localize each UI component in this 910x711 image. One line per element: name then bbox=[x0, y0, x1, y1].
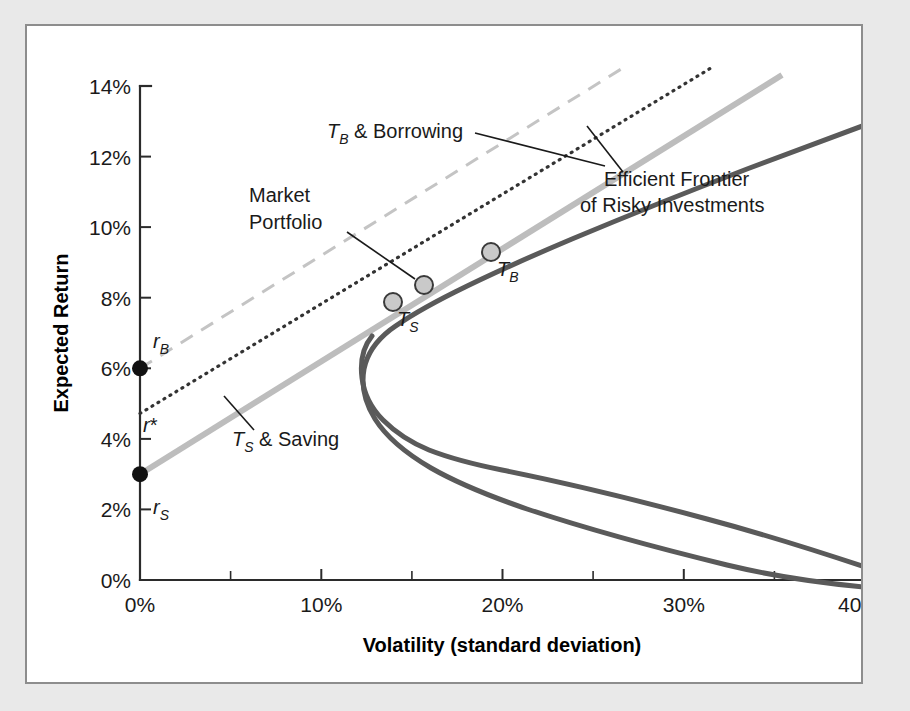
y-ticks-group: 14% 12% 10% 8% 6% 4% 2% 0% bbox=[89, 75, 151, 592]
y-ticklabel-6: 6% bbox=[101, 357, 131, 380]
y-ticklabel-12: 12% bbox=[89, 146, 131, 169]
y-ticklabel-0: 0% bbox=[101, 569, 131, 592]
annotation-ts-saving-rest: & Saving bbox=[254, 428, 340, 450]
annotation-market-portfolio-line2: Portfolio bbox=[249, 211, 322, 233]
annotation-tb-borrowing-rest: & Borrowing bbox=[349, 120, 464, 142]
x-ticklabel-10: 10% bbox=[300, 593, 342, 616]
y-axis-title: Expected Return bbox=[50, 254, 72, 413]
annotation-r-star-sub: * bbox=[150, 414, 158, 436]
annotation-tb-point-sub: B bbox=[509, 269, 518, 285]
annotation-efficient-frontier-line1: Efficient Frontier bbox=[604, 168, 750, 190]
annotation-r-star: r* bbox=[143, 414, 158, 436]
y-ticklabel-2: 2% bbox=[101, 498, 131, 521]
efficient-frontier-chart: 14% 12% 10% 8% 6% 4% 2% 0% 0% bbox=[27, 26, 861, 682]
annotation-efficient-frontier-line2: of Risky Investments bbox=[580, 194, 765, 216]
point-rb-marker bbox=[132, 360, 148, 376]
annotation-ts-saving-text: TS & Saving bbox=[232, 428, 339, 455]
y-ticklabel-10: 10% bbox=[89, 216, 131, 239]
annotation-market-portfolio: Market Portfolio bbox=[249, 184, 415, 279]
x-ticklabel-40: 40% bbox=[838, 593, 861, 616]
x-axis-title: Volatility (standard deviation) bbox=[363, 634, 642, 656]
x-ticks-group: 0% 10% 20% 30% 40% bbox=[125, 569, 861, 616]
figure-page: 14% 12% 10% 8% 6% 4% 2% 0% 0% bbox=[0, 0, 910, 711]
annotation-efficient-frontier-leader bbox=[587, 126, 623, 172]
x-ticklabel-0: 0% bbox=[125, 593, 155, 616]
y-ticklabel-4: 4% bbox=[101, 428, 131, 451]
annotation-ts-saving-leader bbox=[224, 396, 254, 430]
annotation-rs-sub: S bbox=[160, 507, 170, 523]
y-ticklabel-8: 8% bbox=[101, 287, 131, 310]
annotation-ts-saving: TS & Saving bbox=[224, 396, 339, 455]
x-ticklabel-20: 20% bbox=[481, 593, 523, 616]
annotation-rb-sub: B bbox=[160, 341, 169, 357]
annotation-tb-borrowing-text: TB & Borrowing bbox=[327, 120, 463, 147]
annotation-market-portfolio-line1: Market bbox=[249, 184, 311, 206]
annotation-market-portfolio-leader bbox=[347, 232, 415, 279]
annotation-efficient-frontier: Efficient Frontier of Risky Investments bbox=[580, 126, 765, 216]
point-market-portfolio-marker bbox=[415, 276, 433, 294]
figure-frame: 14% 12% 10% 8% 6% 4% 2% 0% 0% bbox=[25, 24, 863, 684]
annotation-tb-borrowing: TB & Borrowing bbox=[327, 120, 605, 166]
point-rs-marker bbox=[132, 466, 148, 482]
x-ticklabel-30: 30% bbox=[663, 593, 705, 616]
y-ticklabel-14: 14% bbox=[89, 75, 131, 98]
annotation-rs-label: rS bbox=[153, 496, 170, 523]
axes-group bbox=[140, 86, 861, 580]
annotation-ts-point-sub: S bbox=[409, 319, 419, 335]
annotation-rb-label: rB bbox=[153, 330, 169, 357]
annotation-tb-borrowing-sub: B bbox=[339, 131, 348, 147]
